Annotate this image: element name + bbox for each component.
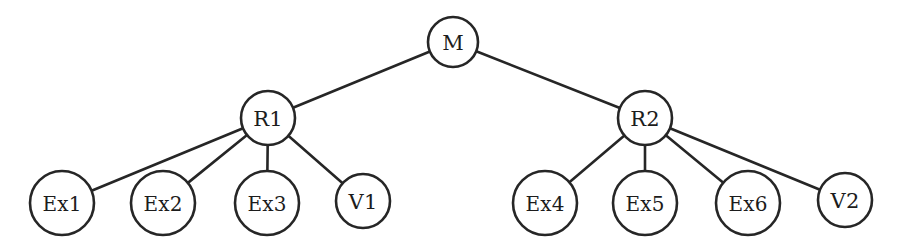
- node-v1[interactable]: V1: [336, 174, 390, 228]
- node-label-r1: R1: [253, 107, 283, 131]
- node-r2[interactable]: R2: [618, 91, 672, 145]
- edge-r1-ex2: [188, 135, 247, 183]
- node-label-ex3: Ex3: [247, 192, 286, 216]
- edge-m-r2: [476, 51, 620, 108]
- node-label-r2: R2: [630, 107, 660, 131]
- node-label-ex5: Ex5: [625, 192, 664, 216]
- node-r1[interactable]: R1: [241, 91, 295, 145]
- nodes-layer: MR1R2Ex1Ex2Ex3V1Ex4Ex5Ex6V2: [30, 17, 872, 235]
- node-label-ex4: Ex4: [525, 192, 564, 216]
- node-label-m: M: [442, 31, 464, 55]
- tree-diagram-canvas: MR1R2Ex1Ex2Ex3V1Ex4Ex5Ex6V2: [0, 0, 899, 251]
- node-ex5[interactable]: Ex5: [613, 171, 677, 235]
- node-label-v1: V1: [348, 190, 378, 214]
- node-m[interactable]: M: [428, 17, 478, 67]
- node-ex4[interactable]: Ex4: [513, 171, 577, 235]
- node-label-v2: V2: [830, 189, 860, 213]
- edge-r2-ex6: [666, 135, 724, 182]
- node-label-ex6: Ex6: [728, 192, 767, 216]
- edges-layer: [92, 51, 820, 191]
- tree-diagram: MR1R2Ex1Ex2Ex3V1Ex4Ex5Ex6V2: [0, 0, 899, 251]
- edge-m-r1: [293, 52, 430, 108]
- node-v2[interactable]: V2: [818, 173, 872, 227]
- node-ex6[interactable]: Ex6: [716, 171, 780, 235]
- node-ex1[interactable]: Ex1: [30, 171, 94, 235]
- edge-r1-v1: [288, 136, 342, 183]
- node-ex3[interactable]: Ex3: [235, 171, 299, 235]
- node-ex2[interactable]: Ex2: [131, 171, 195, 235]
- edge-r2-ex4: [569, 135, 624, 182]
- node-label-ex1: Ex1: [42, 192, 81, 216]
- node-label-ex2: Ex2: [143, 192, 182, 216]
